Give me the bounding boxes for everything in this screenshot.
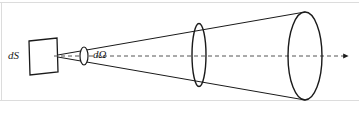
diagram-canvas — [0, 0, 359, 113]
cone-upper-ray — [52, 12, 305, 56]
solid-angle-element-ellipse — [80, 47, 88, 65]
surface-element-label: dS — [8, 50, 19, 61]
solid-angle-diagram: dS dΩ — [0, 0, 359, 113]
surface-element-patch — [29, 38, 58, 75]
mid-cross-section-ellipse — [192, 24, 206, 87]
cone-lower-ray — [52, 56, 305, 100]
solid-angle-label: dΩ — [93, 49, 106, 60]
